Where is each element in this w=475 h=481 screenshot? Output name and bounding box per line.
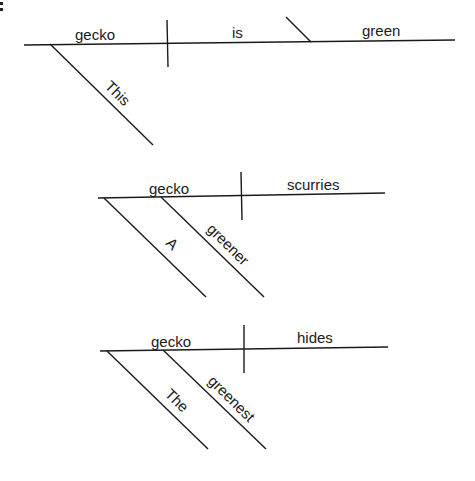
modifier-line (161, 197, 264, 297)
verb-word: is (232, 24, 243, 41)
diagram-2: gecko scurries A greener (98, 172, 385, 297)
modifier-line (50, 44, 153, 145)
complement-divider (286, 17, 311, 42)
verb-word: hides (297, 329, 333, 346)
verb-word: scurries (287, 176, 340, 193)
subject-word: gecko (75, 26, 115, 43)
diagram-1: gecko is green This (24, 17, 455, 145)
modifier-word: The (162, 385, 192, 415)
modifier-line (107, 351, 208, 449)
modifier-line (104, 198, 206, 297)
subject-verb-divider (167, 20, 168, 67)
modifier-word: This (102, 77, 134, 109)
diagram-3: gecko hides The greenest (100, 325, 388, 449)
sentence-diagrams: gecko is green This gecko scurries A gre… (0, 0, 475, 481)
subject-word: gecko (149, 180, 189, 197)
modifier-word: greener (204, 220, 253, 268)
subject-verb-divider (241, 172, 242, 220)
modifier-word: A (163, 234, 182, 253)
complement-word: green (362, 22, 400, 39)
corner-mark (0, 2, 3, 11)
subject-word: gecko (151, 333, 191, 350)
